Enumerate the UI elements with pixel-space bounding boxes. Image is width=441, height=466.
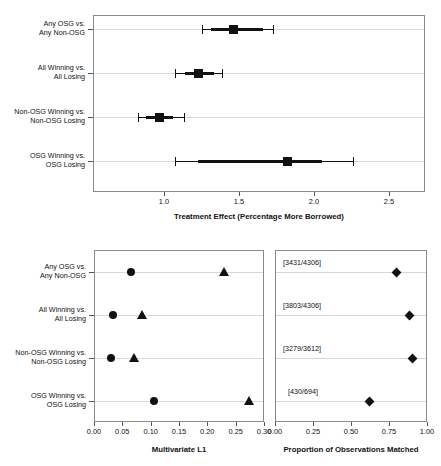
prop-xtick-3 [351, 422, 352, 426]
forest-ytick-1 [88, 29, 93, 30]
forest-ytick-4 [88, 161, 93, 162]
prop-xticklabel-1: 0.00 [262, 427, 288, 436]
forest-estimate-3 [155, 113, 164, 122]
forest-ylabel-3: Non-OSG Winning vs. Non-OSG Losing [0, 108, 85, 125]
prop-annotation-4: [430/694] [288, 387, 318, 396]
forest-ytick-2 [88, 73, 93, 74]
l1-gridline-3 [95, 358, 263, 359]
l1-circle-1 [127, 268, 135, 276]
l1-gridline-1 [95, 272, 263, 273]
prop-xtick-4 [389, 422, 390, 426]
prop-xtick-2 [313, 422, 314, 426]
forest-estimate-4 [283, 157, 292, 166]
l1-triangle-4 [244, 396, 254, 405]
forest-cap-high-4 [353, 157, 354, 166]
l1-xticklabel-6: 0.25 [223, 427, 249, 436]
l1-xticklabel-3: 0.10 [138, 427, 164, 436]
forest-gridline-2 [94, 73, 424, 74]
prop-xticklabel-5: 1.00 [414, 427, 440, 436]
l1-xtick-3 [151, 422, 152, 426]
l1-triangle-2 [137, 310, 147, 319]
forest-xaxis-title: Treatment Effect (Percentage More Borrow… [93, 212, 425, 221]
l1-xtick-2 [122, 422, 123, 426]
l1-plot-frame [94, 250, 264, 422]
l1-ylabel-2: All Winning vs. All Losing [0, 306, 86, 323]
l1-triangle-1 [219, 267, 229, 276]
l1-ytick-3 [89, 358, 94, 359]
l1-ylabel-3: Non-OSG Winning vs. Non-OSG Losing [0, 349, 86, 366]
prop-xticklabel-3: 0.50 [338, 427, 364, 436]
prop-xaxis-title: Proportion of Observations Matched [268, 445, 434, 454]
l1-xtick-1 [94, 422, 95, 426]
l1-circle-2 [109, 311, 117, 319]
forest-ylabel-1: Any OSG vs. Any Non-OSG [0, 20, 85, 37]
forest-xticklabel-1: 1.0 [150, 197, 178, 206]
l1-xtick-7 [264, 422, 265, 426]
l1-gridline-2 [95, 315, 263, 316]
forest-ylabel-4: OSG Winning vs. OSG Losing [0, 152, 85, 169]
forest-cap-low-4 [175, 157, 176, 166]
prop-annotation-2: [3803/4306] [283, 301, 321, 310]
forest-xtick-2 [239, 192, 240, 196]
prop-gridline-3 [276, 358, 426, 359]
forest-ylabel-2: All Winning vs. All Losing [0, 64, 85, 81]
l1-xticklabel-1: 0.00 [81, 427, 107, 436]
forest-cap-high-1 [273, 25, 274, 34]
forest-xticklabel-3: 2.0 [300, 197, 328, 206]
l1-xaxis-title: Multivariate L1 [94, 445, 264, 454]
prop-xtick-1 [275, 422, 276, 426]
prop-annotation-1: [3431/4306] [283, 258, 321, 267]
forest-cap-high-2 [222, 69, 223, 78]
l1-ylabel-4: OSG Winning vs. OSG Losing [0, 392, 86, 409]
forest-xtick-3 [314, 192, 315, 196]
l1-xticklabel-5: 0.20 [194, 427, 220, 436]
prop-gridline-4 [276, 401, 426, 402]
l1-xtick-6 [236, 422, 237, 426]
prop-annotation-3: [3279/3612] [283, 344, 321, 353]
l1-ytick-2 [89, 315, 94, 316]
forest-xticklabel-4: 2.5 [375, 197, 403, 206]
prop-xticklabel-2: 0.25 [300, 427, 326, 436]
prop-xtick-5 [427, 422, 428, 426]
forest-ytick-3 [88, 117, 93, 118]
forest-xtick-1 [164, 192, 165, 196]
l1-circle-3 [107, 354, 115, 362]
forest-xtick-4 [389, 192, 390, 196]
forest-cap-high-3 [184, 113, 185, 122]
l1-gridline-4 [95, 401, 263, 402]
forest-cap-low-2 [175, 69, 176, 78]
l1-xticklabel-2: 0.05 [109, 427, 135, 436]
l1-ytick-4 [89, 401, 94, 402]
prop-plot-frame [275, 250, 427, 422]
forest-plot-frame [93, 15, 425, 192]
l1-xticklabel-4: 0.15 [166, 427, 192, 436]
l1-triangle-3 [129, 353, 139, 362]
forest-xticklabel-2: 1.5 [225, 197, 253, 206]
l1-ylabel-1: Any OSG vs. Any Non-OSG [0, 263, 86, 280]
prop-xticklabel-4: 0.75 [376, 427, 402, 436]
l1-ytick-1 [89, 272, 94, 273]
forest-cap-low-1 [202, 25, 203, 34]
l1-xtick-5 [207, 422, 208, 426]
prop-gridline-1 [276, 272, 426, 273]
forest-estimate-2 [194, 69, 203, 78]
l1-circle-4 [150, 397, 158, 405]
forest-estimate-1 [229, 25, 238, 34]
l1-xtick-4 [179, 422, 180, 426]
forest-inner-ci-4 [198, 160, 323, 163]
forest-cap-low-3 [138, 113, 139, 122]
